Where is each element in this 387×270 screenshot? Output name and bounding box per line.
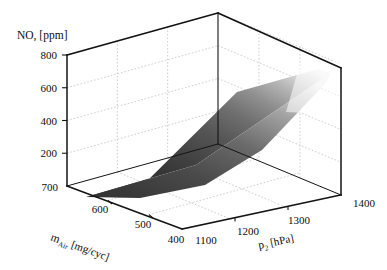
axis-title-p2-unit: [hPa] [266,232,294,249]
axis-title-no: NO, [ppm] [17,29,67,42]
ticklabel-x-1200: 1200 [237,225,260,237]
chart-container: 800 600 400 200 700 600 500 400 1100 120… [0,0,387,270]
ticklabel-z-200: 200 [41,147,58,159]
ticklabel-y-400: 400 [168,233,185,245]
ticklabel-x-1100: 1100 [195,234,217,246]
ticklabel-y-700: 700 [42,181,59,193]
ticklabel-x-1300: 1300 [288,214,311,226]
ticklabel-y-600: 600 [92,203,109,215]
ticklabel-y-500: 500 [135,218,152,230]
ticklabel-z-400: 400 [41,115,58,127]
ticklabel-z-800: 800 [41,49,58,61]
axis-title-mair-unit: [mg/cyc] [67,237,111,263]
axis-title-p2: p2 [hPa] [257,232,295,254]
axis-title-mair: mAir [mg/cyc] [48,231,111,266]
ticklabel-x-1400: 1400 [353,197,376,209]
ticklabel-z-600: 600 [41,82,58,94]
surface-plot-3d: 800 600 400 200 700 600 500 400 1100 120… [0,0,387,270]
